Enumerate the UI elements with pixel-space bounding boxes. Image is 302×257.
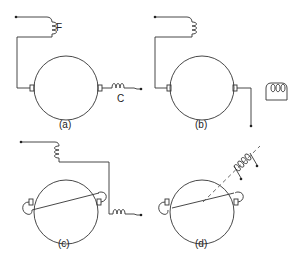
compensating-coil-icon — [102, 84, 141, 90]
terminal-dot — [140, 88, 143, 91]
panel-d: (d) — [159, 146, 260, 249]
terminal-dot — [154, 16, 157, 19]
armature-circle — [170, 180, 234, 244]
brush-left — [30, 85, 34, 91]
brush-right — [97, 199, 101, 205]
terminal-dot — [250, 125, 253, 128]
armature-wire — [237, 88, 251, 125]
panel-label-d: (d) — [195, 238, 207, 249]
terminal-dot — [240, 178, 243, 181]
field-wire — [21, 142, 59, 146]
armature-circle — [34, 56, 98, 120]
armature-circle — [34, 180, 98, 244]
brush-axis-line — [32, 193, 99, 210]
field-wire — [17, 34, 52, 88]
left-loop — [159, 202, 168, 214]
compensating-coil-icon — [109, 210, 141, 216]
left-loop — [23, 202, 32, 214]
terminal-dot — [20, 141, 23, 144]
right-loop — [235, 192, 243, 202]
panel-label-c: (c) — [58, 238, 70, 249]
brush-left — [165, 199, 169, 205]
panel-label-b: (b) — [195, 119, 207, 130]
brush-right — [98, 85, 102, 91]
brush-right — [234, 199, 238, 205]
brush-axis-line — [172, 193, 234, 208]
field-wire — [155, 34, 192, 88]
terminal-dot — [256, 165, 259, 168]
panel-a: F C (a) — [15, 16, 143, 130]
terminal-dot — [140, 214, 143, 217]
panel-label-a: (a) — [59, 119, 71, 130]
field-coil-label: F — [56, 22, 62, 33]
field-coil-icon — [16, 17, 57, 34]
detached-coil-icon — [271, 84, 285, 92]
brush-left — [29, 199, 33, 205]
terminal-dot — [15, 16, 18, 19]
right-loop — [98, 192, 106, 202]
armature-circle — [170, 56, 234, 120]
compensating-coil-label: C — [117, 93, 124, 104]
panel-c: (c) — [20, 141, 143, 249]
field-coil-icon — [155, 17, 197, 34]
panel-b: (b) — [154, 16, 287, 130]
motor-winding-diagram: F C (a) (b) (c) — [0, 0, 302, 257]
